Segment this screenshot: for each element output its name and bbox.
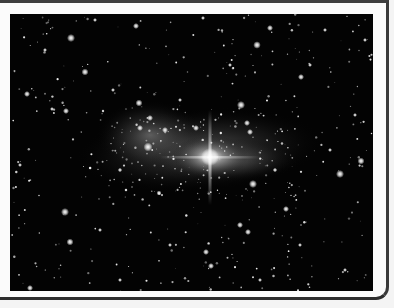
faint-star bbox=[360, 221, 361, 222]
faint-star bbox=[183, 247, 185, 249]
faint-star bbox=[210, 177, 212, 179]
faint-star bbox=[15, 186, 17, 188]
faint-star bbox=[231, 59, 233, 61]
faint-star bbox=[43, 51, 45, 53]
faint-star bbox=[208, 268, 209, 269]
faint-star bbox=[200, 187, 201, 188]
faint-star bbox=[275, 133, 276, 134]
faint-star bbox=[226, 146, 227, 147]
faint-star bbox=[12, 120, 14, 122]
faint-star bbox=[33, 90, 34, 91]
faint-star bbox=[184, 81, 185, 82]
faint-star bbox=[125, 189, 127, 191]
faint-star bbox=[61, 102, 63, 104]
faint-star bbox=[121, 132, 122, 133]
faint-star bbox=[223, 45, 225, 47]
faint-star bbox=[91, 260, 93, 262]
faint-star bbox=[183, 56, 185, 58]
faint-star bbox=[225, 225, 226, 226]
faint-star bbox=[258, 206, 260, 208]
faint-star bbox=[161, 177, 163, 179]
faint-star bbox=[362, 121, 364, 123]
faint-star bbox=[254, 108, 255, 109]
faint-star bbox=[175, 244, 177, 246]
faint-star bbox=[141, 198, 143, 200]
faint-star bbox=[132, 272, 133, 273]
faint-star bbox=[24, 209, 26, 211]
faint-star bbox=[266, 99, 268, 101]
faint-star bbox=[220, 140, 222, 142]
faint-star bbox=[366, 150, 367, 151]
faint-star bbox=[295, 207, 296, 208]
faint-star bbox=[371, 133, 373, 135]
faint-star bbox=[260, 113, 261, 114]
faint-star bbox=[121, 84, 122, 85]
faint-star bbox=[84, 17, 85, 18]
faint-star bbox=[232, 257, 233, 258]
faint-star bbox=[164, 131, 166, 133]
faint-star bbox=[357, 201, 359, 203]
faint-star bbox=[17, 161, 19, 163]
faint-star bbox=[55, 244, 57, 246]
faint-star bbox=[125, 158, 127, 160]
faint-star bbox=[128, 266, 129, 267]
faint-star bbox=[277, 131, 278, 132]
faint-star bbox=[192, 34, 194, 36]
faint-star bbox=[295, 48, 296, 49]
faint-star bbox=[219, 193, 220, 194]
bright-star bbox=[24, 91, 30, 97]
faint-star bbox=[89, 167, 92, 170]
bright-star bbox=[328, 148, 332, 152]
faint-star bbox=[227, 257, 229, 259]
faint-star bbox=[312, 31, 313, 32]
faint-star bbox=[180, 183, 182, 185]
faint-star bbox=[177, 189, 179, 191]
faint-star bbox=[273, 267, 275, 269]
faint-star bbox=[274, 149, 276, 151]
faint-star bbox=[167, 131, 168, 132]
faint-star bbox=[132, 107, 133, 108]
faint-star bbox=[219, 145, 220, 146]
bright-star bbox=[244, 120, 250, 126]
faint-star bbox=[90, 90, 91, 91]
faint-star bbox=[231, 254, 232, 255]
faint-star bbox=[306, 156, 307, 157]
faint-star bbox=[324, 218, 325, 219]
faint-star bbox=[161, 194, 163, 196]
faint-star bbox=[210, 191, 212, 193]
faint-star bbox=[293, 95, 295, 97]
faint-star bbox=[370, 54, 372, 56]
bright-star bbox=[93, 18, 97, 22]
faint-star bbox=[253, 190, 255, 192]
faint-star bbox=[39, 232, 40, 233]
faint-star bbox=[68, 119, 69, 120]
faint-star bbox=[211, 109, 212, 110]
faint-star bbox=[114, 127, 116, 129]
bright-star bbox=[27, 285, 33, 291]
faint-star bbox=[288, 38, 289, 39]
faint-star bbox=[18, 274, 20, 276]
faint-star bbox=[139, 87, 141, 89]
faint-star bbox=[161, 184, 163, 186]
faint-star bbox=[122, 181, 123, 182]
faint-star bbox=[349, 163, 350, 164]
faint-star bbox=[156, 148, 157, 149]
faint-star bbox=[263, 115, 265, 117]
faint-star bbox=[252, 276, 254, 278]
faint-star bbox=[151, 149, 153, 151]
faint-star bbox=[203, 174, 205, 176]
faint-star bbox=[242, 200, 243, 201]
faint-star bbox=[187, 71, 189, 73]
faint-star bbox=[217, 29, 219, 31]
faint-star bbox=[243, 242, 245, 244]
faint-star bbox=[173, 156, 174, 157]
faint-star bbox=[291, 29, 293, 31]
faint-star bbox=[247, 190, 248, 191]
faint-star bbox=[265, 174, 267, 176]
faint-star bbox=[14, 71, 15, 72]
faint-star bbox=[187, 280, 189, 282]
faint-star bbox=[49, 100, 50, 101]
bright-star bbox=[133, 23, 139, 29]
faint-star bbox=[183, 160, 184, 161]
bright-star bbox=[283, 206, 289, 212]
